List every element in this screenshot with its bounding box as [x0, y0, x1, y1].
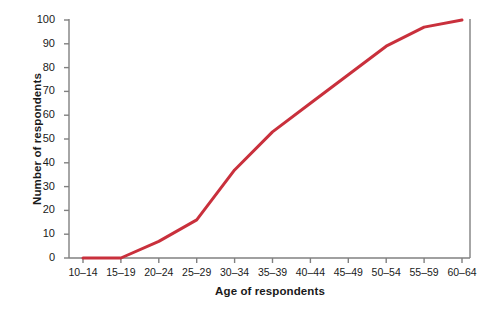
x-axis-tick-label: 60–64 — [432, 267, 492, 278]
y-axis-tick-label: 100 — [19, 14, 55, 25]
y-axis-tick-label: 30 — [19, 181, 55, 192]
chart-figure: Number of respondents 010203040506070809… — [0, 0, 494, 313]
y-axis-tick-label: 20 — [19, 204, 55, 215]
y-axis-tick-label: 80 — [19, 62, 55, 73]
x-axis-title: Age of respondents — [60, 285, 480, 297]
data-series-line — [83, 20, 462, 258]
y-axis-tick-label: 40 — [19, 157, 55, 168]
y-axis-tick-label: 50 — [19, 133, 55, 144]
y-axis-tick-label: 60 — [19, 109, 55, 120]
y-axis-tick-label: 90 — [19, 38, 55, 49]
y-axis-tick-label: 10 — [19, 228, 55, 239]
plot-area: 010203040506070809010010–1415–1920–2425–… — [0, 0, 494, 313]
y-axis-tick-label: 70 — [19, 85, 55, 96]
y-axis-tick-label: 0 — [19, 252, 55, 263]
